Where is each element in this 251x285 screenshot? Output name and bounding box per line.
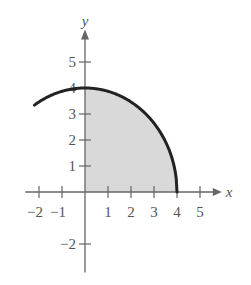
x-tick-label: 1 bbox=[104, 204, 112, 220]
y-axis-label: y bbox=[80, 13, 89, 29]
x-tick-label: −2 bbox=[27, 204, 43, 220]
x-axis-label: x bbox=[225, 184, 233, 200]
y-tick-label: 5 bbox=[69, 54, 77, 70]
x-tick-label: 5 bbox=[196, 204, 204, 220]
x-tick-label: 4 bbox=[173, 204, 181, 220]
x-axis-arrow-icon bbox=[213, 188, 222, 196]
x-tick-label: −1 bbox=[50, 204, 66, 220]
y-tick-label: 1 bbox=[69, 158, 77, 174]
y-tick-label: −2 bbox=[60, 236, 76, 252]
y-tick-label: 2 bbox=[69, 132, 77, 148]
y-tick-label: 3 bbox=[69, 106, 77, 122]
quarter-circle-plot: −2−112345−212345xy bbox=[0, 0, 251, 285]
x-tick-label: 2 bbox=[127, 204, 135, 220]
x-tick-label: 3 bbox=[150, 204, 158, 220]
y-axis-arrow-icon bbox=[81, 30, 89, 40]
